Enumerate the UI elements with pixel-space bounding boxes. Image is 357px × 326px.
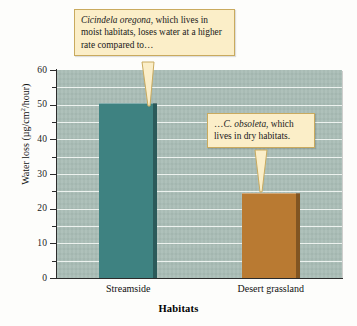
bar-desert-grassland[interactable]	[242, 193, 300, 278]
y-tick-minor-15	[52, 226, 57, 227]
y-tick-major-20	[50, 209, 57, 210]
y-tick-minor-35	[52, 157, 57, 158]
x-axis-label-desert-grassland: Desert grassland	[201, 283, 341, 294]
gridline-55	[57, 87, 342, 88]
callout-desert-species: C. obsoleta	[223, 119, 266, 129]
y-tick-label-30: 30	[37, 170, 47, 180]
figure-container: 0102030405060 Water loss (µg/cm2/hour) S…	[0, 0, 357, 326]
y-tick-major-30	[50, 174, 57, 175]
y-tick-label-60: 60	[37, 66, 47, 76]
y-tick-label-0: 0	[42, 274, 47, 284]
callout-desert-text2: lives in dry habitats.	[214, 131, 290, 141]
callout-desert-text1: , which	[266, 119, 294, 129]
plot-area	[57, 70, 342, 278]
x-axis-title: Habitats	[0, 303, 357, 314]
x-axis-label-streamside: Streamside	[58, 283, 198, 294]
y-tick-label-50: 50	[37, 100, 47, 110]
y-tick-label-10: 10	[37, 239, 47, 249]
callout-desert-lead: …	[214, 119, 223, 129]
y-tick-label-40: 40	[37, 135, 47, 145]
y-axis-title-main: Water loss (µg/cm	[20, 112, 31, 185]
y-tick-label-20: 20	[37, 204, 47, 214]
callout-streamside[interactable]: Cicindela oregona, which lives in moist …	[74, 9, 235, 56]
y-tick-major-40	[50, 139, 57, 140]
y-tick-major-0	[50, 278, 57, 279]
callout-pointer-streamside	[128, 62, 188, 112]
callout-desert-grassland[interactable]: …C. obsoleta, which lives in dry habitat…	[207, 113, 315, 148]
callout-pointer-desert-grassland	[245, 150, 295, 198]
x-axis-line	[56, 278, 343, 279]
y-tick-major-60	[50, 70, 57, 71]
y-tick-major-10	[50, 243, 57, 244]
bar-desert-grassland-shadow	[296, 193, 300, 278]
callout-streamside-species: Cicindela oregona	[81, 15, 151, 25]
callout-streamside-text1: , which lives	[151, 15, 199, 25]
bar-streamside[interactable]	[99, 103, 157, 278]
bar-desert-grassland-face	[242, 193, 300, 278]
y-axis-title-exponent: 2	[19, 108, 27, 112]
y-tick-minor-5	[52, 261, 57, 262]
bar-streamside-shadow	[153, 103, 157, 278]
y-tick-minor-55	[52, 87, 57, 88]
y-tick-minor-45	[52, 122, 57, 123]
bar-streamside-face	[99, 103, 157, 278]
y-tick-minor-25	[52, 191, 57, 192]
y-axis-title: Water loss (µg/cm2/hour)	[19, 54, 31, 214]
y-axis-title-tail: /hour)	[20, 84, 31, 108]
y-tick-major-50	[50, 105, 57, 106]
